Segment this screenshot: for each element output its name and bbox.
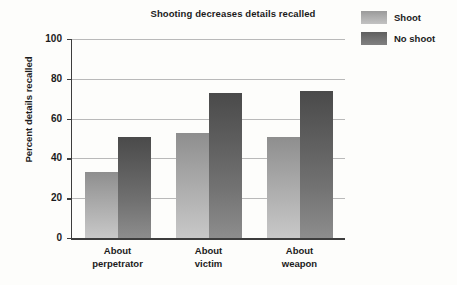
legend-label-shoot: Shoot (394, 12, 421, 23)
legend-label-no-shoot: No shoot (394, 33, 435, 44)
y-axis-tick-mark (67, 198, 71, 199)
y-axis-tick-label: 100 (32, 33, 62, 44)
bar (209, 93, 242, 238)
x-axis-tick-label-line: perpetrator (68, 258, 168, 271)
x-axis-tick-label-line: victim (159, 258, 259, 271)
x-axis-line (71, 238, 345, 240)
x-axis-tick-label: Aboutperpetrator (68, 245, 168, 270)
x-axis-tick-label: Aboutweapon (250, 245, 350, 270)
y-axis-tick-label: 40 (32, 152, 62, 163)
gridline (72, 39, 345, 40)
bar (118, 137, 151, 238)
y-axis-tick-label: 20 (32, 192, 62, 203)
gridline (72, 79, 345, 80)
y-axis-tick-mark (67, 79, 71, 80)
y-axis-tick-label: 80 (32, 73, 62, 84)
bar (300, 91, 333, 238)
y-axis-tick-mark (67, 158, 71, 159)
legend-swatch-no-shoot-icon (361, 32, 387, 45)
y-axis-tick-label: 60 (32, 113, 62, 124)
x-axis-tick-label-line: About (68, 245, 168, 258)
legend-item-shoot: Shoot (361, 10, 456, 24)
bar (85, 172, 118, 238)
x-axis-tick-label-line: weapon (250, 258, 350, 271)
x-axis-tick-label-line: About (159, 245, 259, 258)
legend-swatch-shoot-icon (361, 11, 387, 24)
y-axis-tick-mark (67, 119, 71, 120)
y-axis-tick-mark (67, 238, 71, 239)
bar-chart-figure: Shooting decreases details recalled Shoo… (0, 0, 457, 285)
y-axis-tick-mark (67, 39, 71, 40)
legend-item-no-shoot: No shoot (361, 31, 456, 45)
bar (176, 133, 209, 238)
bar (267, 137, 300, 238)
chart-legend: Shoot No shoot (361, 10, 456, 52)
x-axis-tick-label-line: About (250, 245, 350, 258)
y-axis-tick-label: 0 (32, 232, 62, 243)
x-axis-tick-label: Aboutvictim (159, 245, 259, 270)
plot-area (72, 39, 345, 238)
chart-title: Shooting decreases details recalled (118, 8, 348, 19)
